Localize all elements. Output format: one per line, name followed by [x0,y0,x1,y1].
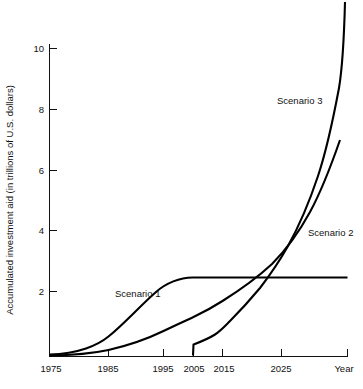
y-tick-label-8: 8 [39,104,44,115]
y-axis-title: Accumulated investment aid (in trillions… [4,85,15,315]
y-axis-ticks [50,49,58,292]
x-tick-label-2015: 2015 [213,363,234,374]
x-tick-label-1995: 1995 [152,363,173,374]
x-tick-label-2025: 2025 [270,363,291,374]
chart-container: 10 8 6 4 2 1975 1985 1995 2005 2015 2025… [0,0,363,389]
series-label-scenario-1: Scenario 1 [115,288,160,299]
y-tick-label-6: 6 [39,165,44,176]
y-tick-label-4: 4 [39,225,44,236]
x-tick-label-1985: 1985 [97,363,118,374]
y-tick-label-10: 10 [33,43,44,54]
x-axis-title: Year [334,363,353,374]
x-axis-tick-labels: 1975 1985 1995 2005 2015 2025 [40,363,291,374]
series-line-scenario-2 [50,140,341,356]
series-label-scenario-2: Scenario 2 [308,227,353,238]
x-tick-label-2005: 2005 [183,363,204,374]
series-line-scenario-3 [193,2,345,356]
line-chart: 10 8 6 4 2 1975 1985 1995 2005 2015 2025… [0,0,363,389]
x-tick-label-1975: 1975 [40,363,61,374]
y-axis-tick-labels: 10 8 6 4 2 [33,43,44,297]
series-label-scenario-3: Scenario 3 [277,95,322,106]
y-tick-label-2: 2 [39,286,44,297]
